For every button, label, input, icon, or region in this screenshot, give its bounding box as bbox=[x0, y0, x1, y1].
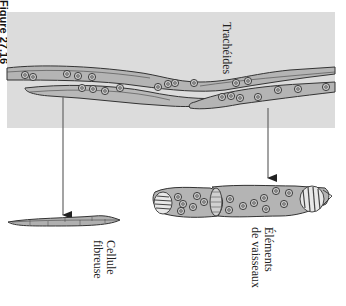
vessel-elements-label-line2: de vaisseaux bbox=[249, 227, 262, 288]
tracheid-cells bbox=[7, 66, 335, 109]
fiber-cell bbox=[8, 216, 120, 226]
vessel-elements bbox=[153, 185, 332, 217]
fiber-cell-label-line2: fibreuse bbox=[91, 240, 104, 279]
vessel-elements-label-line1: Éléments bbox=[262, 227, 275, 272]
xylem-diagram bbox=[0, 0, 346, 306]
tracheids-label: Trachéides bbox=[220, 22, 233, 74]
fiber-cell-label-line1: Cellule bbox=[104, 240, 117, 275]
